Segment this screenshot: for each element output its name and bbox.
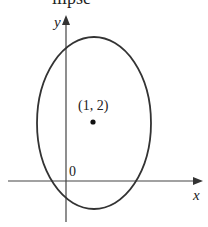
ellipse-diagram: llipse (1, 2) 0 x y [0,0,208,227]
origin-label: 0 [69,164,76,179]
x-axis-arrow-icon [193,177,203,185]
center-label: (1, 2) [78,98,109,114]
y-axis-label: y [52,14,61,30]
center-point [90,119,95,124]
y-axis-arrow-icon [62,15,70,25]
title-fragment: llipse [52,0,91,8]
x-axis-label: x [192,187,200,203]
